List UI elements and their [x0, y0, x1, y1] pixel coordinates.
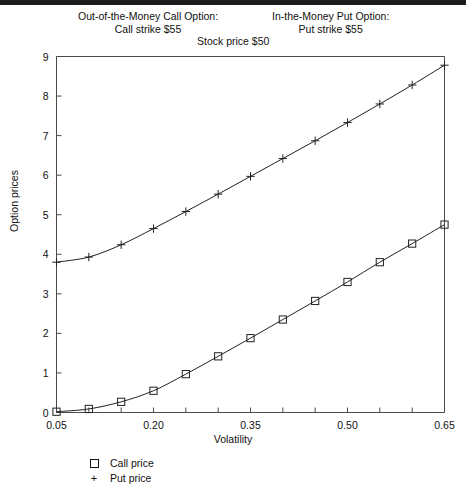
option-price-chart-figure: Out-of-the-Money Call Option: Call strik…	[0, 0, 466, 490]
y-tick-label: 6	[43, 169, 49, 181]
x-tick-label: 0.20	[143, 419, 164, 431]
legend-label-call: Call price	[110, 457, 154, 469]
x-axis-label: Volatility	[0, 433, 466, 445]
y-tick-label: 0	[43, 407, 49, 419]
ticks-group	[57, 57, 445, 413]
tick-labels-group: 01234567890.050.200.350.500.65	[43, 51, 455, 431]
chart-legend: Call price + Put price	[86, 455, 154, 485]
y-tick-label: 7	[43, 130, 49, 142]
y-tick-label: 9	[43, 51, 49, 63]
y-tick-label: 5	[43, 209, 49, 221]
legend-item-call: Call price	[86, 455, 154, 470]
x-tick-label: 0.05	[46, 419, 67, 431]
y-tick-label: 4	[43, 248, 49, 260]
x-tick-label: 0.65	[434, 419, 455, 431]
y-tick-label: 8	[43, 90, 49, 102]
x-tick-label: 0.35	[240, 419, 261, 431]
legend-label-put: Put price	[110, 472, 151, 484]
data-series-group	[52, 61, 448, 415]
legend-square-icon	[86, 457, 102, 469]
series-call-price	[53, 221, 448, 415]
axes-group	[57, 57, 445, 413]
series-put-price	[52, 61, 448, 266]
x-tick-label: 0.50	[337, 419, 358, 431]
legend-plus-icon: +	[86, 472, 102, 484]
legend-item-put: + Put price	[86, 470, 154, 485]
y-tick-label: 2	[43, 327, 49, 339]
y-tick-label: 1	[43, 367, 49, 379]
plot-area: 01234567890.050.200.350.500.65	[0, 0, 466, 430]
y-tick-label: 3	[43, 288, 49, 300]
